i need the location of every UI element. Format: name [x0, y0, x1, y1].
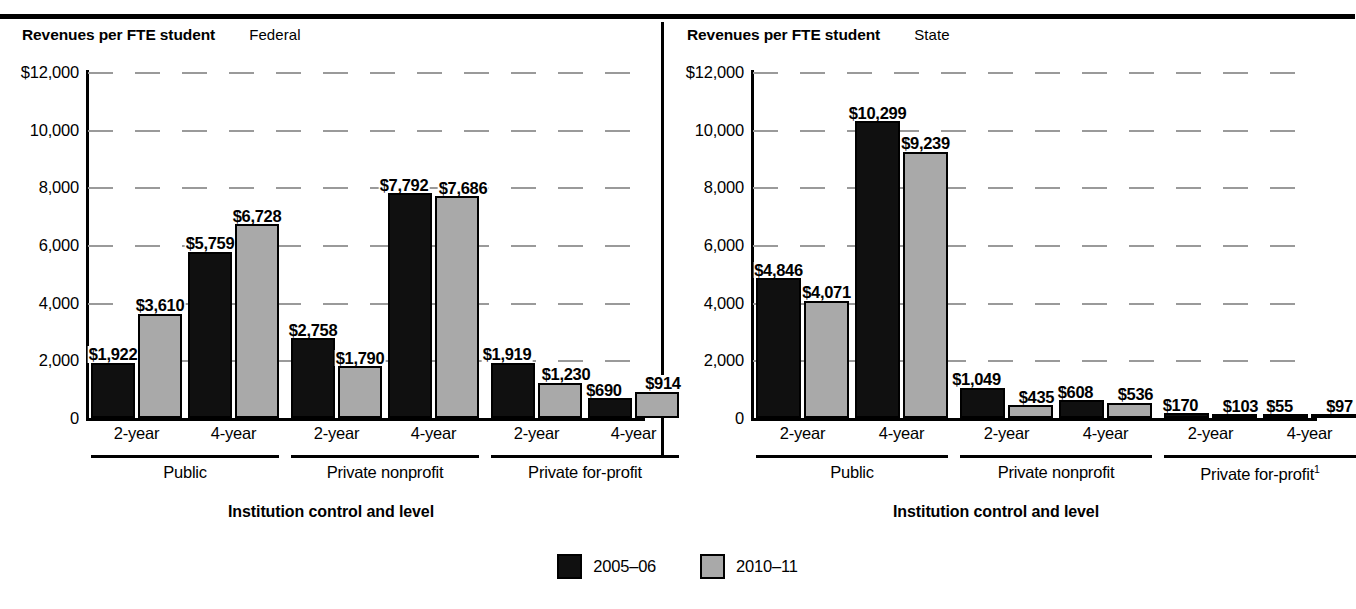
legend-item-2005-06: 2005–06 — [557, 554, 656, 579]
group-underline — [1164, 455, 1356, 458]
x-axis-line-federal — [86, 418, 645, 421]
bar-2010-11-private-nonprofit-4-year: $7,686 — [435, 196, 479, 418]
category-label: 2-year — [756, 424, 849, 443]
x-axis-caption-federal: Institution control and level — [0, 503, 662, 521]
bar-value-label: $9,239 — [900, 135, 951, 152]
y-axis-tick-label: 2,000 — [704, 351, 744, 370]
bar-value-label: $2,758 — [288, 322, 339, 339]
y-axis-tick-label: 6,000 — [39, 236, 79, 255]
y-axis-tick-label: 4,000 — [704, 293, 744, 312]
bar-value-label: $1,922 — [88, 346, 139, 363]
bar-value-label: $97 — [1325, 398, 1354, 415]
bar-2010-11-private-for-profit-2-year: $1,230 — [538, 383, 582, 418]
chart-legend: 2005–06 2010–11 — [0, 554, 1355, 579]
category-label: 2-year — [1164, 424, 1257, 443]
bar-2005-06-private-for-profit-4-year: $55 — [1263, 414, 1308, 418]
category-label: 2-year — [291, 424, 382, 443]
group-label: Private nonprofit — [960, 463, 1152, 482]
bar-2010-11-private-nonprofit-4-year: $536 — [1107, 403, 1152, 418]
bar-2005-06-private-nonprofit-4-year: $608 — [1059, 400, 1104, 418]
bar-2005-06-public-2-year: $4,846 — [756, 278, 801, 418]
y-axis-title-state: Revenues per FTE student — [687, 26, 880, 43]
y-axis-tick-label: 4,000 — [39, 293, 79, 312]
y-axis-tick-label: 0 — [70, 409, 79, 428]
bar-value-label: $3,610 — [135, 297, 186, 314]
bar-value-label: $6,728 — [232, 208, 283, 225]
bar-2010-11-private-nonprofit-2-year: $435 — [1008, 405, 1053, 418]
bar-value-label: $435 — [1018, 389, 1056, 406]
group-underline — [491, 455, 679, 458]
panel-header-state: Revenues per FTE studentState — [687, 26, 1307, 48]
bar-value-label: $5,759 — [185, 235, 236, 252]
plot-area-federal: $12,00010,0008,0006,0004,0002,0000 $1,92… — [88, 72, 645, 418]
legend-swatch-2010-11 — [700, 554, 725, 579]
group-label: Private for-profit — [491, 463, 679, 482]
bar-2010-11-private-nonprofit-2-year: $1,790 — [338, 366, 382, 418]
bar-value-label: $4,846 — [753, 262, 804, 279]
y-axis-title-federal: Revenues per FTE student — [22, 26, 215, 43]
bar-2005-06-private-for-profit-2-year: $170 — [1164, 413, 1209, 418]
bar-2010-11-public-4-year: $6,728 — [235, 224, 279, 418]
legend-label-2005-06: 2005–06 — [593, 557, 656, 576]
panel-series-label-state: State — [914, 26, 950, 43]
bar-2010-11-private-for-profit-4-year: $97 — [1311, 414, 1356, 418]
group-underline — [91, 455, 279, 458]
bar-value-label: $10,299 — [848, 105, 908, 122]
group-underline — [960, 455, 1152, 458]
bar-value-label: $1,049 — [951, 371, 1002, 388]
group-label: Private nonprofit — [291, 463, 479, 482]
bar-value-label: $536 — [1117, 386, 1155, 403]
bar-value-label: $690 — [585, 382, 623, 399]
y-axis-tick-label: $12,000 — [21, 63, 79, 82]
group-underline — [756, 455, 948, 458]
category-label: 2-year — [491, 424, 582, 443]
group-underline — [291, 455, 479, 458]
bar-value-label: $4,071 — [801, 284, 852, 301]
chart-panel-federal: Revenues per FTE studentFederal $12,0001… — [0, 0, 662, 609]
bars-state: $4,846$4,071$10,299$9,239$1,049$435$608$… — [753, 72, 1317, 418]
y-axis-tick-label: $12,000 — [686, 63, 744, 82]
bar-2005-06-private-nonprofit-2-year: $1,049 — [960, 388, 1005, 418]
bar-value-label: $1,919 — [482, 346, 533, 363]
legend-item-2010-11: 2010–11 — [700, 554, 798, 579]
bar-2010-11-public-2-year: $4,071 — [804, 301, 849, 418]
y-axis-tick-label: 10,000 — [30, 120, 79, 139]
legend-label-2010-11: 2010–11 — [736, 557, 798, 576]
category-label: 4-year — [188, 424, 279, 443]
category-label: 4-year — [855, 424, 948, 443]
x-axis-line-state — [751, 418, 1317, 421]
bar-2005-06-private-nonprofit-4-year: $7,792 — [388, 193, 432, 418]
category-label: 4-year — [1263, 424, 1356, 443]
bar-value-label: $170 — [1162, 397, 1200, 414]
y-axis-tick-label: 0 — [735, 409, 744, 428]
bar-2005-06-public-4-year: $5,759 — [188, 252, 232, 418]
bar-value-label: $1,230 — [541, 366, 592, 383]
group-label: Public — [91, 463, 279, 482]
bar-2010-11-private-for-profit-2-year: $103 — [1212, 414, 1257, 418]
y-axis-tick-label: 10,000 — [695, 120, 744, 139]
legend-swatch-2005-06 — [557, 554, 582, 579]
category-label: 2-year — [960, 424, 1053, 443]
bar-value-label: $608 — [1057, 384, 1095, 401]
bar-value-label: $7,686 — [438, 180, 489, 197]
bar-2005-06-private-for-profit-2-year: $1,919 — [491, 363, 535, 418]
category-label: 4-year — [1059, 424, 1152, 443]
bar-2005-06-private-for-profit-4-year: $690 — [588, 398, 632, 418]
group-footnote-marker: 1 — [1314, 463, 1320, 475]
category-label: 4-year — [388, 424, 479, 443]
bar-2005-06-public-2-year: $1,922 — [91, 363, 135, 418]
bar-2005-06-private-nonprofit-2-year: $2,758 — [291, 338, 335, 418]
bars-federal: $1,922$3,610$5,759$6,728$2,758$1,790$7,7… — [88, 72, 645, 418]
bar-2010-11-public-4-year: $9,239 — [903, 152, 948, 418]
x-axis-caption-state: Institution control and level — [665, 503, 1327, 521]
group-label: Private for-profit1 — [1164, 463, 1356, 484]
y-axis-tick-label: 2,000 — [39, 351, 79, 370]
chart-panel-state: Revenues per FTE studentState $12,00010,… — [665, 0, 1327, 609]
group-label: Public — [756, 463, 948, 482]
bar-2005-06-public-4-year: $10,299 — [855, 121, 900, 418]
bar-2010-11-public-2-year: $3,610 — [138, 314, 182, 418]
bar-value-label: $7,792 — [379, 177, 430, 194]
panel-series-label-federal: Federal — [249, 26, 301, 43]
bar-value-label: $1,790 — [335, 350, 386, 367]
plot-area-state: $12,00010,0008,0006,0004,0002,0000 $4,84… — [753, 72, 1317, 418]
